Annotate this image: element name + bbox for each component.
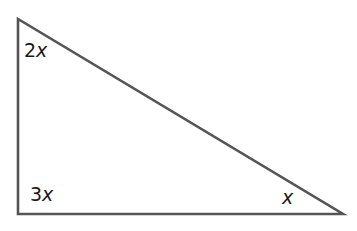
angle-coefficient: 2 [24, 39, 36, 61]
triangle-outline [18, 19, 343, 214]
angle-variable: x [36, 39, 47, 61]
angle-label-bottom-left: 3x [30, 185, 53, 204]
angle-variable: x [42, 183, 53, 205]
angle-coefficient: 3 [30, 183, 42, 205]
angle-label-top: 2x [24, 41, 47, 60]
angle-variable: x [282, 186, 293, 208]
angle-label-bottom-right: x [282, 188, 293, 207]
triangle-shape [0, 0, 357, 231]
triangle-diagram: 2x 3x x [0, 0, 357, 231]
